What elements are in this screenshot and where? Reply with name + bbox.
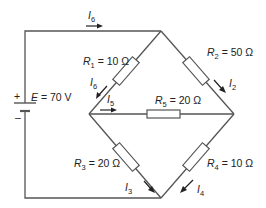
r2-label: R2 = 50 Ω [207, 46, 253, 61]
wires [25, 31, 234, 198]
current-label-i5: I5 [107, 93, 114, 108]
circuit-diagram: + – E = 70 V R1 = 10 Ω R2 = 50 Ω R5 = 20… [0, 0, 266, 208]
r4-label: R4 = 10 Ω [207, 157, 253, 172]
current-label-i2: I2 [229, 77, 236, 92]
battery-plus-sign: + [14, 90, 20, 102]
battery-symbol: + – E = 70 V [14, 90, 72, 123]
current-label-i6-branch: I6 [90, 76, 97, 91]
current-arrow-i6-branch [96, 86, 107, 99]
current-label-i6-top: I6 [88, 9, 95, 24]
battery-label: E = 70 V [31, 91, 72, 103]
current-arrow-i5 [100, 108, 117, 113]
current-arrow-i4 [180, 180, 193, 193]
current-arrow-i3 [144, 181, 155, 193]
r3-label: R3 = 20 Ω [74, 157, 120, 172]
current-label-i4: I4 [197, 183, 204, 198]
resistor-r5 [147, 110, 180, 118]
battery-minus-sign: – [15, 111, 21, 123]
current-label-i3: I3 [125, 181, 132, 196]
resistor-r4 [183, 143, 209, 172]
resistor-r2 [183, 57, 209, 86]
r5-label: R5 = 20 Ω [155, 94, 201, 109]
current-arrow-i6-top [86, 24, 103, 29]
current-arrow-i2 [214, 80, 226, 93]
